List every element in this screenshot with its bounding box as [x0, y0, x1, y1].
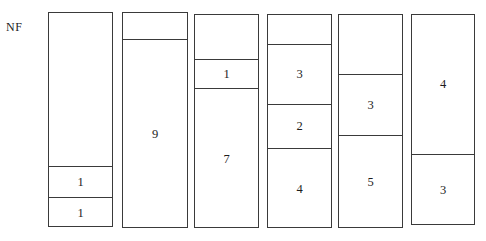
bar-1-segment-3-label: 1 [77, 207, 83, 220]
chart-canvas: NF 1 1 9 1 7 [0, 0, 486, 241]
bar-4-segment-4-label: 4 [296, 183, 302, 196]
bar-3-segment-2[interactable]: 1 [195, 59, 258, 88]
bar-3-segment-2-label: 1 [223, 68, 229, 81]
bar-3-segment-3-label: 7 [223, 153, 229, 166]
bar-4-segment-3[interactable]: 2 [268, 104, 331, 148]
bar-2-segment-2[interactable]: 9 [123, 39, 187, 229]
bar-4-segment-2-label: 3 [296, 68, 302, 81]
stacked-bar-4[interactable]: 3 2 4 [267, 14, 332, 228]
bar-4-segment-1[interactable] [268, 15, 331, 44]
bar-1-segment-1[interactable] [49, 13, 112, 166]
bar-5-segment-2[interactable]: 3 [339, 74, 402, 135]
stacked-bar-1[interactable]: 1 1 [48, 12, 113, 227]
bar-2-segment-1[interactable] [123, 13, 187, 39]
bar-5-segment-3-label: 5 [367, 176, 373, 189]
stacked-bar-5[interactable]: 3 5 [338, 14, 403, 228]
bar-6-segment-1[interactable]: 4 [412, 15, 474, 154]
bar-1-segment-2[interactable]: 1 [49, 166, 112, 197]
bar-4-segment-3-label: 2 [296, 120, 302, 133]
bar-3-segment-1[interactable] [195, 15, 258, 59]
bar-5-segment-1[interactable] [339, 15, 402, 74]
bar-6-segment-1-label: 4 [440, 78, 446, 91]
y-axis-label: NF [6, 20, 22, 35]
bar-1-segment-3[interactable]: 1 [49, 197, 112, 228]
bar-2-segment-2-label: 9 [152, 128, 158, 141]
bar-1-segment-2-label: 1 [77, 176, 83, 189]
bar-3-segment-3[interactable]: 7 [195, 88, 258, 229]
stacked-bar-3[interactable]: 1 7 [194, 14, 259, 228]
bar-5-segment-2-label: 3 [367, 99, 373, 112]
stacked-bar-2[interactable]: 9 [122, 12, 188, 228]
bar-5-segment-3[interactable]: 5 [339, 135, 402, 229]
bar-6-segment-2[interactable]: 3 [412, 154, 474, 226]
bar-4-segment-4[interactable]: 4 [268, 148, 331, 229]
bar-6-segment-2-label: 3 [440, 184, 446, 197]
stacked-bar-6[interactable]: 4 3 [411, 14, 475, 225]
bar-4-segment-2[interactable]: 3 [268, 44, 331, 104]
